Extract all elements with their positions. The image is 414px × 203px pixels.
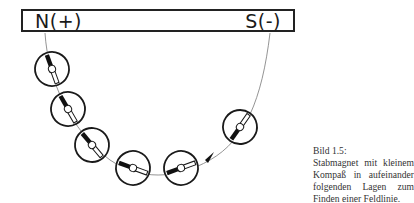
caption-title: Bild 1.5:: [313, 145, 414, 157]
compass-icon: [45, 86, 91, 132]
compass-icon: [111, 146, 155, 190]
direction-arrow-icon: [205, 152, 214, 163]
south-pole-label: S(-): [245, 10, 281, 32]
figure-caption: Bild 1.5: Stabmagnet mit kleinem Kompaß …: [313, 145, 414, 203]
compass-icon: [216, 103, 263, 150]
compass-icon: [68, 121, 116, 169]
caption-text: Stabmagnet mit kleinem Kompaß in aufeina…: [313, 157, 414, 203]
compass-icon: [30, 47, 74, 91]
bar-magnet: N(+) S(-): [21, 9, 295, 32]
north-pole-label: N(+): [35, 10, 82, 32]
compass-icon: [159, 146, 203, 190]
